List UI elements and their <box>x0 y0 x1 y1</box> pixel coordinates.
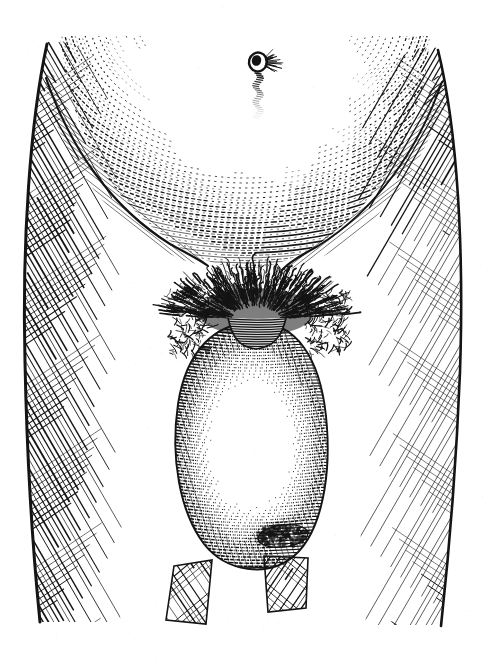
engraving-figure: male lower abdomen and groin with enlarg… <box>0 0 487 662</box>
engraving-canvas <box>0 0 487 662</box>
